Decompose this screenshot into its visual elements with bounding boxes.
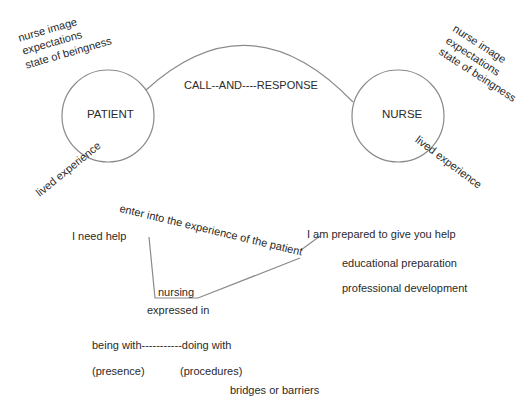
nurse-label: NURSE (382, 109, 422, 121)
presence-label: (presence) (92, 366, 145, 377)
bridges-or-barriers: bridges or barriers (230, 385, 319, 396)
nursing-label: nursing (158, 287, 194, 298)
patient-statement: I need help (72, 231, 126, 242)
procedures-label: (procedures) (180, 366, 242, 377)
expressed-in-label: expressed in (147, 305, 209, 316)
being-doing-with: being with-----------doing with (92, 340, 231, 351)
educational-preparation: educational preparation (342, 258, 457, 269)
professional-development: professional development (342, 283, 467, 294)
nurse-statement: I am prepared to give you help (307, 229, 456, 240)
patient-label: PATIENT (87, 109, 134, 121)
call-and-response-label: CALL--AND----RESPONSE (184, 80, 318, 91)
call-response-arc (146, 45, 353, 102)
